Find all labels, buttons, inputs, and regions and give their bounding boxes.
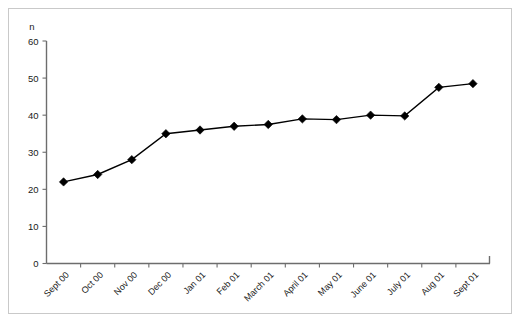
data-point-marker xyxy=(469,79,477,87)
x-axis-group: Sept 00Oct 00Nov 00Dec 00Jan 01Feb 01Mar… xyxy=(42,256,490,303)
y-axis-unit-label: n xyxy=(29,21,34,32)
x-axis-tick-label: June 01 xyxy=(348,270,378,300)
data-point-marker xyxy=(93,170,101,178)
line-chart: 0102030405060 Sept 00Oct 00Nov 00Dec 00J… xyxy=(0,0,521,324)
x-axis-tick-label: Aug 01 xyxy=(419,270,446,297)
y-axis-group: 0102030405060 xyxy=(28,36,47,270)
data-point-marker xyxy=(230,122,238,130)
series-line xyxy=(64,84,473,182)
y-axis-tick-label: 60 xyxy=(28,36,39,47)
y-axis-tick-label: 50 xyxy=(28,73,39,84)
y-axis-tick-label: 30 xyxy=(28,147,39,158)
chart-screenshot: 0102030405060 Sept 00Oct 00Nov 00Dec 00J… xyxy=(0,0,521,324)
x-axis-tick-label: April 01 xyxy=(281,270,310,299)
y-axis-tick-labels: 0102030405060 xyxy=(28,36,39,270)
x-axis-tick-label: Nov 00 xyxy=(112,270,139,297)
x-axis-tick-label: Feb 01 xyxy=(215,270,242,297)
y-axis-tick-label: 20 xyxy=(28,184,39,195)
data-point-marker xyxy=(196,126,204,134)
data-point-marker xyxy=(298,115,306,123)
x-axis-tick-label: Dec 00 xyxy=(146,270,173,297)
x-axis-tick-label: March 01 xyxy=(242,270,276,304)
x-axis-tick-label: July 01 xyxy=(385,270,412,297)
data-point-marker xyxy=(332,115,340,123)
x-axis-tick-label: May 01 xyxy=(316,270,344,298)
x-axis-tick-labels: Sept 00Oct 00Nov 00Dec 00Jan 01Feb 01Mar… xyxy=(42,270,480,304)
x-axis-tick-label: Sept 00 xyxy=(42,270,71,299)
data-point-marker xyxy=(59,178,67,186)
y-axis-tick-label: 10 xyxy=(28,221,39,232)
x-axis-tick-label: Jan 01 xyxy=(181,270,207,296)
data-point-marker xyxy=(366,111,374,119)
y-axis-tick-label: 0 xyxy=(33,258,38,269)
x-axis-tick-label: Oct 00 xyxy=(79,270,105,296)
series-markers xyxy=(59,79,477,186)
y-axis-tick-label: 40 xyxy=(28,110,39,121)
series-group xyxy=(59,79,477,186)
x-axis-tick-label: Sept 01 xyxy=(451,270,480,299)
data-point-marker xyxy=(264,120,272,128)
